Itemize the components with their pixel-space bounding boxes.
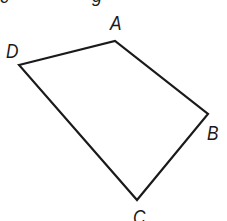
cropped-text-fragment-left: c	[0, 0, 9, 6]
quadrilateral-abcd	[19, 41, 208, 200]
vertex-label-d: D	[6, 40, 18, 61]
vertex-label-b: B	[207, 122, 218, 143]
cropped-text-fragment-mid: g	[92, 0, 102, 5]
vertex-label-c: C	[133, 206, 145, 221]
vertex-label-a: A	[110, 12, 121, 33]
